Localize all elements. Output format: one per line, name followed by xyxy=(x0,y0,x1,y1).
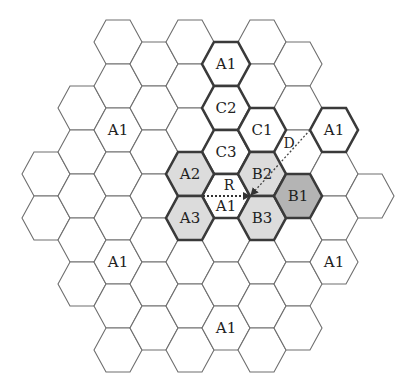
cell-label-c1: C1 xyxy=(251,121,272,139)
cell-label-a3: A3 xyxy=(179,209,200,227)
cell-label-a1: A1 xyxy=(323,253,344,271)
cell-label-a1: A1 xyxy=(107,253,128,271)
cell-label-a1: A1 xyxy=(107,121,128,139)
cell-label-c2: C2 xyxy=(215,99,236,117)
hex-cell-diagram: A1C2C3A1C1A2A3B2B3B1A1A1A1A1A1 R D xyxy=(0,0,414,390)
cell-label-a1: A1 xyxy=(215,197,236,215)
reuse-distance-label: D xyxy=(283,135,294,151)
cell-label-c3: C3 xyxy=(215,143,236,161)
cell-label-b3: B3 xyxy=(252,209,273,227)
cell-label-b1: B1 xyxy=(288,187,309,205)
cell-label-a1: A1 xyxy=(215,319,236,337)
cell-label-a2: A2 xyxy=(179,165,200,183)
cell-label-a1: A1 xyxy=(323,121,344,139)
cell-label-a1: A1 xyxy=(215,55,236,73)
radius-label: R xyxy=(224,177,235,193)
